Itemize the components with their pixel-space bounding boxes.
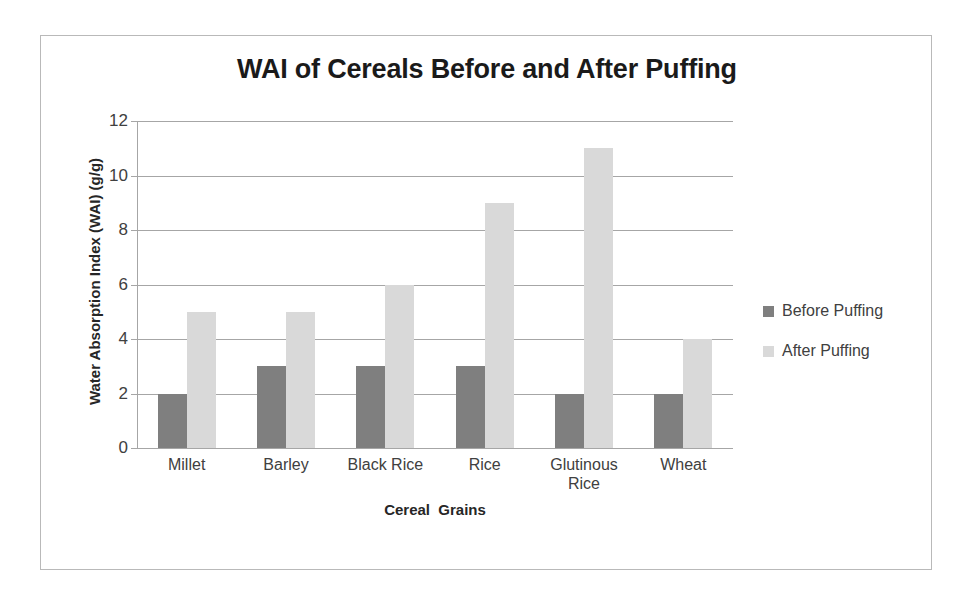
plot-area: 024681012 MilletBarleyBlack RiceRiceGlut… [137, 121, 733, 448]
y-axis-tick-label: 0 [119, 438, 128, 458]
x-axis-title: Cereal Grains [137, 501, 733, 518]
bar-group [137, 121, 236, 448]
gridline [137, 448, 733, 449]
x-axis-category-label: Wheat [634, 456, 733, 475]
x-axis-category-label: Glutinous Rice [534, 456, 633, 494]
x-axis-category-label: Rice [435, 456, 534, 475]
bar-group [634, 121, 733, 448]
bar-after-puffing[interactable] [385, 285, 414, 449]
y-axis-tick-label: 4 [119, 329, 128, 349]
y-axis-tick-label: 2 [119, 384, 128, 404]
y-axis-tick-label: 8 [119, 220, 128, 240]
bar-before-puffing[interactable] [257, 366, 286, 448]
chart-frame: WAI of Cereals Before and After Puffing … [40, 35, 932, 570]
bar-before-puffing[interactable] [158, 394, 187, 449]
legend-label: Before Puffing [782, 302, 883, 320]
x-axis-category-label: Black Rice [336, 456, 435, 475]
legend-label: After Puffing [782, 342, 870, 360]
legend-swatch-icon [763, 346, 774, 357]
chart-title: WAI of Cereals Before and After Puffing [41, 54, 933, 85]
bar-after-puffing[interactable] [485, 203, 514, 448]
y-axis-title: Water Absorption Index (WAI) (g/g) [86, 117, 103, 447]
y-axis-tick-mark [131, 448, 137, 449]
bar-group [336, 121, 435, 448]
y-axis-tick-label: 6 [119, 275, 128, 295]
bar-after-puffing[interactable] [584, 148, 613, 448]
legend-item[interactable]: Before Puffing [763, 303, 923, 319]
bar-before-puffing[interactable] [654, 394, 683, 449]
bar-group [435, 121, 534, 448]
chart-legend: Before PuffingAfter Puffing [763, 303, 923, 383]
bar-group [534, 121, 633, 448]
bar-after-puffing[interactable] [683, 339, 712, 448]
bar-before-puffing[interactable] [356, 366, 385, 448]
bar-before-puffing[interactable] [555, 394, 584, 449]
legend-item[interactable]: After Puffing [763, 343, 923, 359]
bar-before-puffing[interactable] [456, 366, 485, 448]
bar-after-puffing[interactable] [187, 312, 216, 448]
bar-group [236, 121, 335, 448]
legend-swatch-icon [763, 306, 774, 317]
chart-page: WAI of Cereals Before and After Puffing … [0, 0, 968, 609]
bar-after-puffing[interactable] [286, 312, 315, 448]
y-axis-tick-label: 10 [109, 166, 128, 186]
x-axis-category-label: Millet [137, 456, 236, 475]
x-axis-category-label: Barley [236, 456, 335, 475]
y-axis-tick-label: 12 [109, 111, 128, 131]
